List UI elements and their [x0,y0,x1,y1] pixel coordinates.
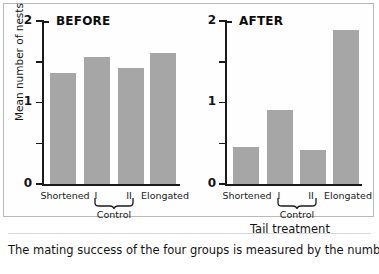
y-tick-0-5-before [36,143,43,145]
control-brace-after [277,198,317,209]
y-tick-label-0-after: 0 [192,177,216,189]
y-tick-2-after [219,20,227,22]
chart-panel-before: Mean number of nests per male BEFORE 2 1… [0,0,195,218]
x-tick-label-shortened-after: Shortened [218,190,276,201]
y-tick-2-before [36,20,44,22]
y-tick-label-1-after: 1 [192,95,216,107]
x-tick-label-shortened-before: Shortened [36,190,94,201]
control-brace-before [94,198,134,209]
chart-panel-after: AFTER 2 1 0 Shortened I II Elongated Con… [190,0,379,218]
y-tick-label-2-after: 2 [192,14,216,26]
y-tick-1-5-after [219,61,226,63]
x-tick-label-elongated-before: Elongated [136,190,194,201]
bar-after-control-ii [300,150,326,184]
bar-after-elongated [333,30,359,184]
figure-panel-mating-success: Mean number of nests per male BEFORE 2 1… [0,0,379,274]
y-tick-1-5-before [36,61,43,63]
bar-after-control-i [267,110,293,184]
y-tick-1-before [36,102,44,104]
bar-after-shortened [233,147,259,184]
bar-before-shortened [50,73,76,184]
y-tick-0-5-after [219,143,226,145]
y-tick-label-1-before: 1 [8,95,32,107]
panel-title-before: BEFORE [56,14,110,28]
x-tick-label-elongated-after: Elongated [319,190,377,201]
y-tick-label-0-before: 0 [8,177,32,189]
control-group-label-before: Control [94,209,134,220]
control-group-label-after: Control [277,209,317,220]
y-tick-label-2-before: 2 [8,14,32,26]
x-axis-line-before [42,184,180,186]
bar-before-elongated [150,53,176,184]
x-axis-line-after [225,184,362,186]
figure-caption: The mating success of the four groups is… [8,243,372,257]
bar-before-control-ii [118,68,144,184]
bar-before-control-i [84,57,110,184]
y-tick-1-after [219,102,227,104]
caption-divider [8,233,371,234]
panel-title-after: AFTER [239,14,283,28]
